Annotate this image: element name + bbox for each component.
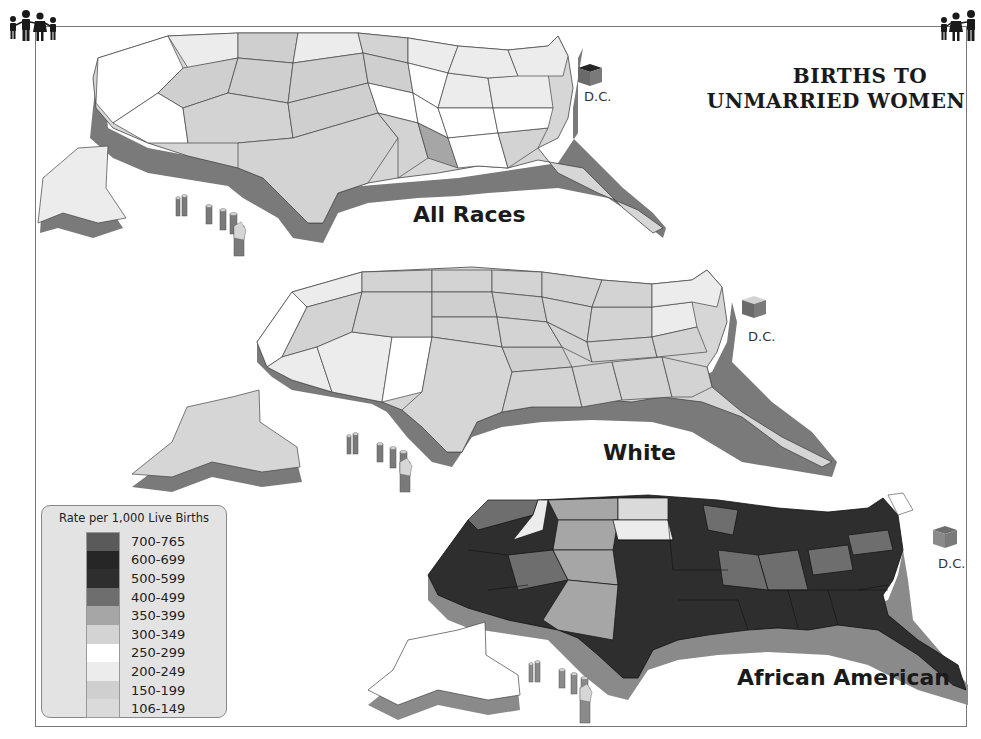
legend-range: 500-599 (131, 571, 185, 586)
legend-item: 200-249 (86, 662, 185, 681)
map-label-all-races: All Races (413, 202, 526, 227)
map-all-races (38, 28, 678, 268)
legend: Rate per 1,000 Live Births 700-765 600-6… (41, 505, 227, 718)
legend-items: 700-765 600-699 500-599 400-499 350-399 … (86, 532, 185, 718)
legend-range: 106-149 (131, 701, 185, 716)
legend-range: 600-699 (131, 552, 185, 567)
title-line-2: UNMARRIED WOMEN (692, 89, 980, 114)
map-white (132, 262, 852, 502)
legend-item: 300-349 (86, 625, 185, 644)
legend-swatch (86, 551, 120, 570)
legend-item: 600-699 (86, 551, 185, 570)
legend-item: 500-599 (86, 569, 185, 588)
map-label-african-american: African American (737, 665, 950, 690)
map-label-white: White (603, 440, 676, 465)
title-line-1: BIRTHS TO (740, 64, 980, 89)
legend-title: Rate per 1,000 Live Births (42, 511, 226, 525)
legend-item: 700-765 (86, 532, 185, 551)
dc-label: D.C. (938, 556, 965, 571)
legend-swatch (86, 625, 120, 644)
legend-range: 350-399 (131, 608, 185, 623)
legend-range: 150-199 (131, 683, 185, 698)
legend-swatch (86, 606, 120, 625)
dc-label: D.C. (584, 89, 611, 104)
legend-swatch (86, 644, 120, 663)
legend-item: 150-199 (86, 681, 185, 700)
legend-swatch (86, 681, 120, 700)
legend-range: 250-299 (131, 645, 185, 660)
legend-item: 250-299 (86, 644, 185, 663)
legend-swatch (86, 662, 120, 681)
dc-label: D.C. (748, 329, 775, 344)
chart-title: BIRTHS TO UNMARRIED WOMEN (740, 64, 980, 114)
legend-swatch (86, 532, 120, 551)
family-icon (937, 8, 981, 44)
legend-range: 700-765 (131, 534, 185, 549)
legend-item: 350-399 (86, 606, 185, 625)
legend-swatch (86, 699, 120, 718)
legend-range: 400-499 (131, 590, 185, 605)
dc-cube (742, 296, 766, 318)
legend-range: 200-249 (131, 664, 185, 679)
legend-item: 106-149 (86, 699, 185, 718)
map-african-american (368, 490, 981, 735)
dc-cube (933, 526, 957, 548)
dc-cube (578, 64, 602, 86)
legend-swatch (86, 569, 120, 588)
legend-item: 400-499 (86, 588, 185, 607)
legend-range: 300-349 (131, 627, 185, 642)
legend-swatch (86, 588, 120, 607)
